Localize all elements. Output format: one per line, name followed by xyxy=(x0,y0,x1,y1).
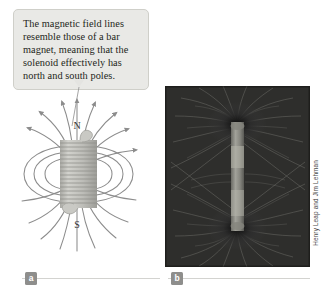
iron-filings-photo xyxy=(165,86,310,267)
solenoid-field-diagram: N S xyxy=(0,84,160,264)
north-pole-label: N xyxy=(73,120,80,131)
callout-text: The magnetic field lines resemble those … xyxy=(23,17,140,82)
photo-credit: Henry Leap and Jim Lehman xyxy=(312,160,319,246)
south-pole-label: S xyxy=(74,219,80,230)
panel-badge-a: a xyxy=(25,272,37,285)
caption-rule-a: a xyxy=(22,272,160,286)
caption-rule-line-b xyxy=(168,278,310,279)
caption-rule-b: b xyxy=(168,272,310,286)
caption-rule-line-a xyxy=(22,278,160,279)
solenoid-coil xyxy=(60,130,97,214)
panel-badge-b: b xyxy=(171,272,183,285)
callout-box: The magnetic field lines resemble those … xyxy=(13,9,149,90)
iron-filings-pattern xyxy=(165,86,310,267)
figure-root: The magnetic field lines resemble those … xyxy=(0,0,334,298)
